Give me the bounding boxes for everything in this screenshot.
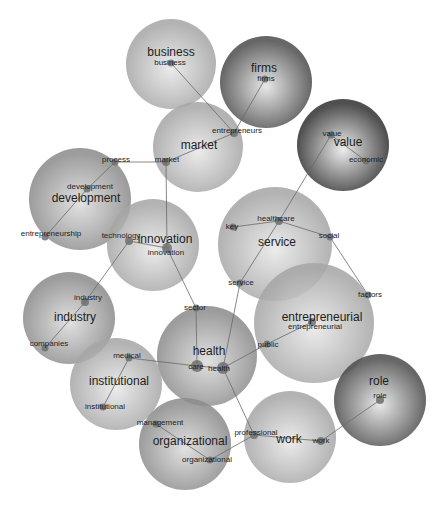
term-label-entrepreneurship: entrepreneurship <box>21 229 82 238</box>
term-label-professional: professional <box>234 428 277 437</box>
term-label-value: value <box>322 129 342 138</box>
term-label-firms: firms <box>257 74 274 83</box>
cluster-bubbles-layer <box>23 19 426 490</box>
term-label-economic: economic <box>349 155 383 164</box>
term-label-business: business <box>154 58 186 67</box>
term-label-service: service <box>228 278 254 287</box>
term-label-institutional: institutional <box>85 402 125 411</box>
term-label-market: market <box>155 155 180 164</box>
cluster-label-innovation: innovation <box>138 232 193 246</box>
term-label-industry: industry <box>74 293 102 302</box>
cluster-label-development: development <box>52 191 121 205</box>
term-label-medical: medical <box>113 351 141 360</box>
term-label-process: process <box>102 155 130 164</box>
term-label-public: public <box>258 340 279 349</box>
cluster-label-health: health <box>193 344 226 358</box>
term-label-innovation: innovation <box>148 248 184 257</box>
cluster-label-market: market <box>181 138 218 152</box>
term-label-care: care <box>188 362 204 371</box>
cluster-label-work: work <box>275 432 302 446</box>
term-label-development: development <box>67 182 114 191</box>
term-label-work: work <box>312 436 331 445</box>
term-label-entrepreneurs: entrepreneurs <box>212 126 262 135</box>
term-cluster-diagram: businessfirmsmarketvaluedevelopmentinnov… <box>0 0 441 507</box>
cluster-label-industry: industry <box>54 310 96 324</box>
term-label-key: key <box>226 222 238 231</box>
term-label-healthcare: healthcare <box>257 214 295 223</box>
cluster-label-service: service <box>258 235 296 249</box>
term-label-role: role <box>373 391 387 400</box>
term-label-social: social <box>319 231 340 240</box>
cluster-label-institutional: institutional <box>89 374 149 388</box>
term-label-sector: sector <box>184 303 206 312</box>
cluster-label-organizational: organizational <box>153 434 228 448</box>
term-label-technology: technology <box>102 231 141 240</box>
cluster-label-role: role <box>369 374 389 388</box>
term-label-organizational: organizational <box>182 455 232 464</box>
term-label-companies: companies <box>30 339 69 348</box>
term-label-management: management <box>137 418 184 427</box>
term-label-health: health <box>208 364 230 373</box>
term-label-factors: factors <box>358 290 382 299</box>
term-label-entrepreneurial: entrepreneurial <box>288 322 342 331</box>
